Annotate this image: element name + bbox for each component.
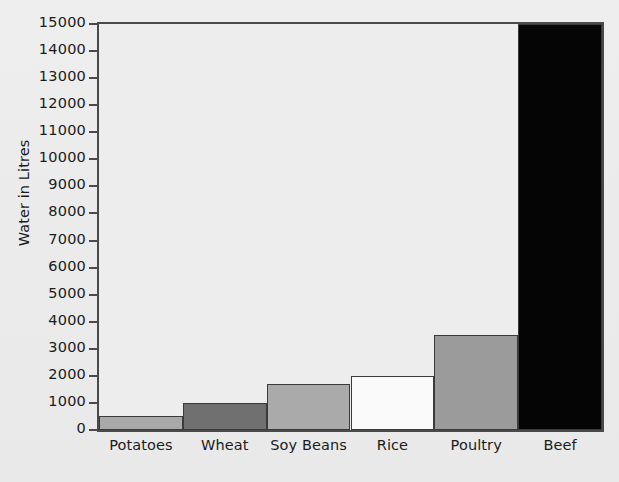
- y-axis-label-13000: 13000: [0, 68, 86, 84]
- y-axis-label-0: 0: [0, 420, 86, 436]
- x-axis-tick-labels: PotatoesWheatSoy BeansRicePoultryBeef: [0, 437, 619, 467]
- y-axis-label-11000: 11000: [0, 122, 86, 138]
- bar-beef[interactable]: [518, 24, 602, 430]
- bar-potatoes[interactable]: [99, 416, 183, 430]
- x-axis-label-soy-beans: Soy Beans: [267, 437, 351, 453]
- y-axis-tick-labels: 1500014000130001200011000100009000800070…: [0, 0, 86, 482]
- y-axis-label-15000: 15000: [0, 14, 86, 30]
- y-axis-label-7000: 7000: [0, 231, 86, 247]
- x-axis-label-potatoes: Potatoes: [99, 437, 183, 453]
- y-axis-label-12000: 12000: [0, 95, 86, 111]
- plot-area: [99, 24, 602, 430]
- y-axis-label-3000: 3000: [0, 339, 86, 355]
- bar-poultry[interactable]: [434, 335, 518, 430]
- x-axis-label-rice: Rice: [351, 437, 435, 453]
- y-axis-label-9000: 9000: [0, 176, 86, 192]
- chart-root: Water in Litres 150001400013000120001100…: [0, 0, 619, 482]
- y-axis-label-5000: 5000: [0, 285, 86, 301]
- x-axis-label-poultry: Poultry: [434, 437, 518, 453]
- y-axis-label-8000: 8000: [0, 203, 86, 219]
- y-axis-label-4000: 4000: [0, 312, 86, 328]
- x-axis-label-beef: Beef: [518, 437, 602, 453]
- y-axis-label-2000: 2000: [0, 366, 86, 382]
- bar-rice[interactable]: [351, 376, 435, 430]
- bar-soy-beans[interactable]: [267, 384, 351, 430]
- y-axis-label-14000: 14000: [0, 41, 86, 57]
- y-axis-label-1000: 1000: [0, 393, 86, 409]
- y-axis-label-6000: 6000: [0, 258, 86, 274]
- y-axis-label-10000: 10000: [0, 149, 86, 165]
- bar-wheat[interactable]: [183, 403, 267, 430]
- x-axis-label-wheat: Wheat: [183, 437, 267, 453]
